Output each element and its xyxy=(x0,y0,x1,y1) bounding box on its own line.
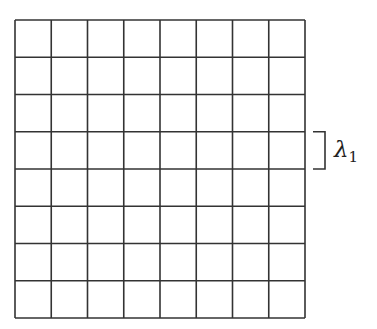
lambda-symbol: λ xyxy=(334,136,349,162)
grid-diagram xyxy=(0,0,377,329)
lambda-1-label: λ1 xyxy=(334,136,358,162)
lambda-subscript: 1 xyxy=(349,148,359,166)
bracket-shape xyxy=(313,132,325,169)
row-bracket xyxy=(313,132,325,169)
grid-lines xyxy=(15,20,305,318)
